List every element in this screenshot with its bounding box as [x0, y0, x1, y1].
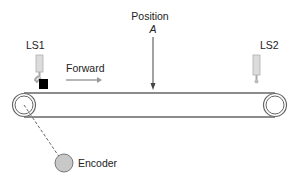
conveyor-belt: [24, 93, 275, 117]
ls2-label: LS2: [260, 39, 279, 51]
right-roller: [264, 94, 287, 117]
ls2-sensor-icon: [253, 55, 260, 84]
encoder-link-dashed: [24, 105, 60, 158]
position-label: Position: [131, 10, 169, 22]
forward-label: Forward: [66, 62, 105, 74]
ls1-label: LS1: [26, 39, 45, 51]
encoder-label: Encoder: [78, 157, 118, 169]
encoder-icon: [55, 154, 73, 172]
object-block: [39, 79, 48, 89]
position-letter: A: [148, 23, 156, 35]
forward-arrow-icon: [66, 77, 102, 83]
conveyor-diagram: Encoder LS1 Forward Position A LS2: [0, 0, 300, 183]
ls1-sensor-icon: [35, 55, 43, 82]
position-arrow-icon: [151, 37, 156, 90]
